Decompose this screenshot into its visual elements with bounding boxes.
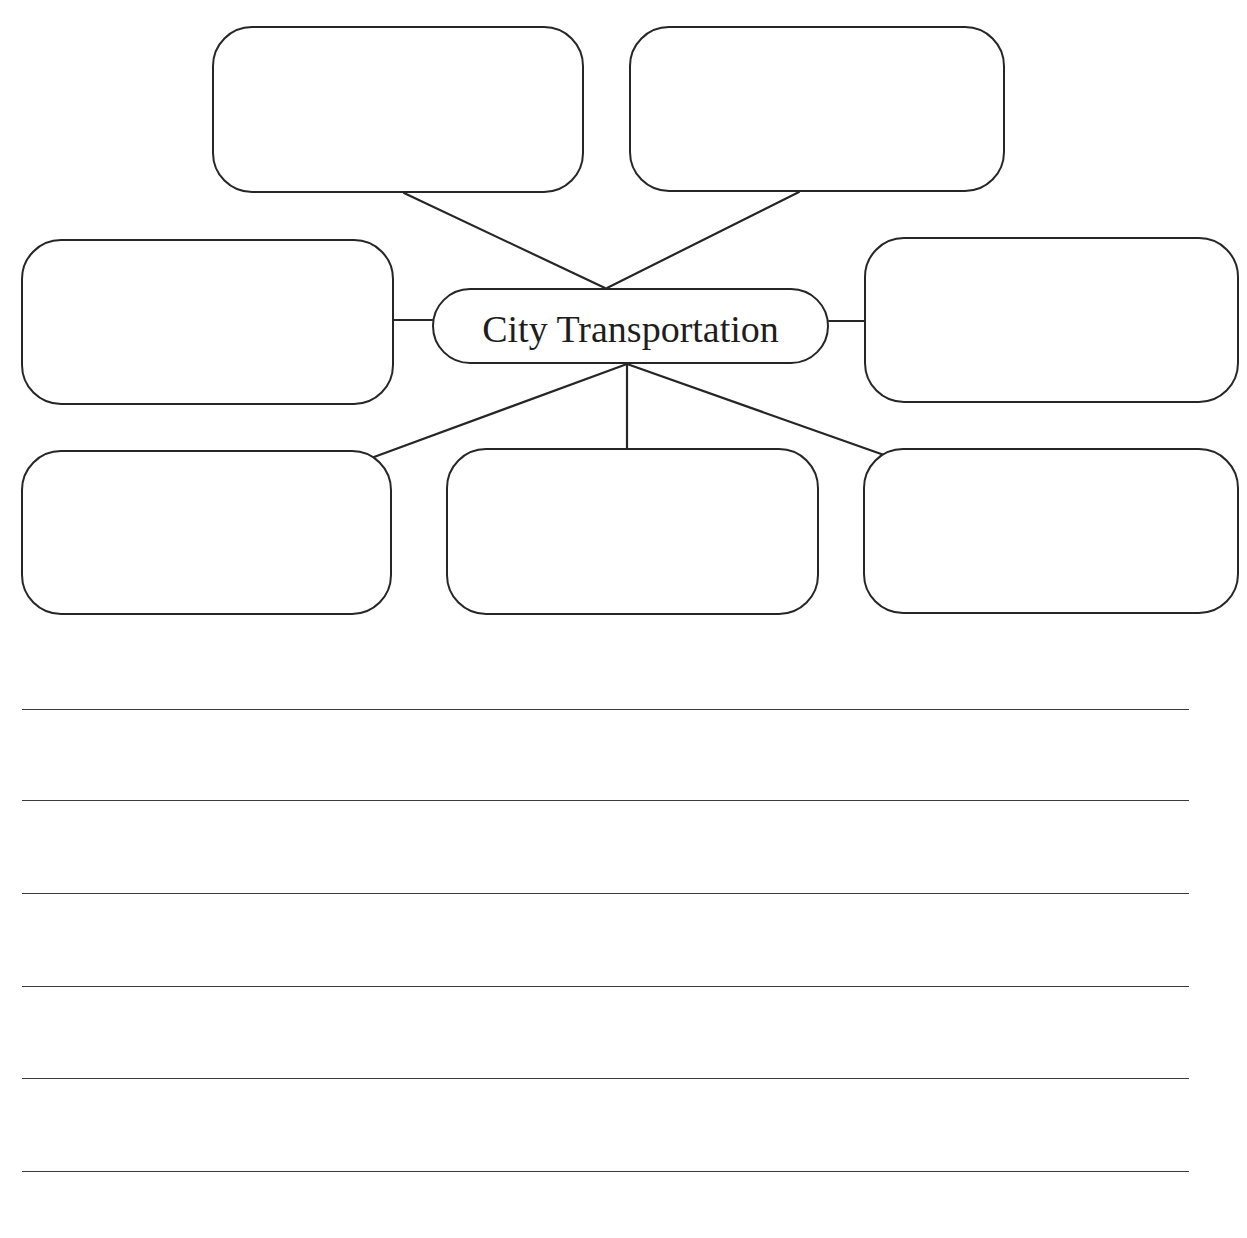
center-topic: City Transportation — [432, 288, 829, 364]
connector-bottom-left — [374, 364, 627, 457]
connector-bottom-right — [627, 364, 884, 455]
connector-lines — [0, 0, 1247, 1238]
node-box-middle-right[interactable] — [864, 237, 1239, 403]
node-box-bottom-left[interactable] — [21, 450, 392, 615]
writing-line-5[interactable] — [22, 1078, 1189, 1079]
node-box-top-left[interactable] — [212, 26, 584, 193]
connector-top-left — [404, 193, 605, 288]
concept-web-worksheet: City Transportation — [0, 0, 1247, 1238]
connector-top-right — [607, 192, 799, 288]
writing-line-3[interactable] — [22, 893, 1189, 894]
node-box-middle-left[interactable] — [21, 239, 394, 405]
node-box-top-right[interactable] — [629, 26, 1005, 192]
writing-line-1[interactable] — [22, 709, 1189, 710]
writing-line-2[interactable] — [22, 800, 1189, 801]
node-box-bottom-center[interactable] — [446, 448, 819, 615]
writing-line-6[interactable] — [22, 1171, 1189, 1172]
center-topic-label: City Transportation — [482, 307, 779, 351]
writing-line-4[interactable] — [22, 986, 1189, 987]
node-box-bottom-right[interactable] — [863, 448, 1239, 614]
